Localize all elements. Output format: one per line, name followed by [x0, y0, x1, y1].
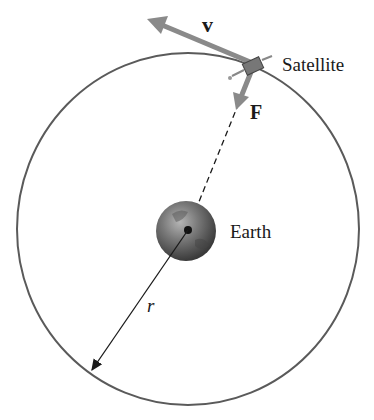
earth-icon	[156, 201, 216, 261]
velocity-label: v	[202, 12, 213, 38]
satellite-label: Satellite	[282, 54, 344, 76]
force-vector-arrow	[233, 72, 251, 110]
radius-label: r	[147, 295, 154, 317]
velocity-vector-arrow	[147, 16, 255, 64]
force-label: F	[250, 101, 262, 124]
radius-arrow	[92, 230, 188, 370]
earth-label: Earth	[230, 221, 271, 243]
